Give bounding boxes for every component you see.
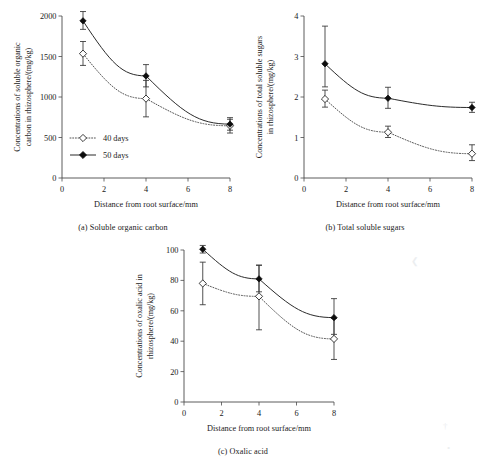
svg-text:3: 3 — [294, 53, 298, 62]
scan-artifact: ❮ — [411, 256, 419, 266]
svg-text:80: 80 — [170, 276, 178, 285]
svg-text:1: 1 — [294, 134, 298, 143]
figure-container: 050010001500200002468Distance from root … — [0, 0, 484, 459]
svg-text:2: 2 — [219, 409, 223, 418]
chart-panel-soluble-organic-carbon: 050010001500200002468Distance from root … — [4, 2, 242, 234]
svg-text:8: 8 — [470, 185, 474, 194]
svg-text:0: 0 — [60, 185, 64, 194]
svg-text:4: 4 — [386, 185, 391, 194]
svg-text:4: 4 — [144, 185, 149, 194]
svg-text:0: 0 — [174, 398, 178, 407]
svg-text:Distance from root surface/mm: Distance from root surface/mm — [207, 424, 311, 433]
svg-text:100: 100 — [166, 246, 178, 255]
chart-caption-c: (c) Oxalic acid — [118, 447, 368, 456]
svg-text:6: 6 — [294, 409, 298, 418]
svg-text:rhizosphere/(mg/kg): rhizosphere/(mg/kg) — [146, 293, 155, 359]
svg-text:0: 0 — [302, 185, 306, 194]
svg-text:Concentrations of total solub: Concentrations of total soluble sugars — [255, 36, 264, 158]
svg-text:6: 6 — [186, 185, 190, 194]
svg-text:Distance from root surface/mm: Distance from root surface/mm — [94, 200, 198, 209]
plot-area-c: 02040608010002468Distance from root surf… — [118, 236, 368, 444]
svg-text:0: 0 — [182, 409, 186, 418]
svg-text:in rhizosphere/(mg/kg): in rhizosphere/(mg/kg) — [266, 60, 275, 135]
svg-text:8: 8 — [332, 409, 336, 418]
svg-text:500: 500 — [44, 134, 56, 143]
scan-artifact: • — [447, 443, 450, 453]
svg-text:4: 4 — [294, 12, 299, 21]
svg-text:8: 8 — [228, 185, 232, 194]
chart-panel-total-soluble-sugars: 0123402468Distance from root surface/mmC… — [246, 2, 484, 234]
svg-text:0: 0 — [52, 174, 56, 183]
svg-text:4: 4 — [257, 409, 262, 418]
svg-text:Concentrations of oxalic acid: Concentrations of oxalic acid in — [135, 274, 144, 377]
chart-panel-oxalic-acid: 02040608010002468Distance from root surf… — [118, 236, 368, 459]
svg-text:Concentrations of soluble orga: Concentrations of soluble organic — [13, 42, 22, 152]
svg-text:40 days: 40 days — [103, 134, 129, 143]
svg-text:6: 6 — [428, 185, 432, 194]
svg-text:2000: 2000 — [40, 12, 57, 21]
svg-text:2: 2 — [102, 185, 106, 194]
svg-text:1000: 1000 — [40, 93, 57, 102]
svg-text:1500: 1500 — [40, 53, 57, 62]
svg-text:2: 2 — [344, 185, 348, 194]
plot-area-b: 0123402468Distance from root surface/mmC… — [246, 2, 484, 220]
svg-text:Distance from root surface/mm: Distance from root surface/mm — [336, 200, 440, 209]
svg-text:60: 60 — [170, 307, 178, 316]
svg-text:0: 0 — [294, 174, 298, 183]
svg-text:50 days: 50 days — [103, 151, 129, 160]
plot-area-a: 050010001500200002468Distance from root … — [4, 2, 242, 220]
svg-text:2: 2 — [294, 93, 298, 102]
svg-text:carbon in rhizosphere/(mg/kg): carbon in rhizosphere/(mg/kg) — [24, 47, 33, 146]
chart-caption-b: (b) Total soluble sugars — [246, 223, 484, 232]
svg-text:20: 20 — [170, 368, 178, 377]
chart-caption-a: (a) Soluble organic carbon — [4, 223, 242, 232]
svg-text:40: 40 — [170, 337, 178, 346]
scan-artifact: † — [443, 421, 448, 431]
